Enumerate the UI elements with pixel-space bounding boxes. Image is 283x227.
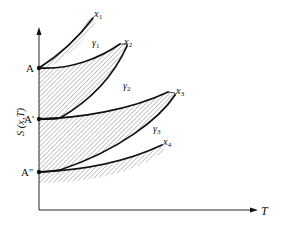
point-A1 bbox=[37, 117, 41, 121]
point-A2 bbox=[37, 170, 41, 174]
point-A bbox=[37, 66, 41, 70]
label-x4: x4 bbox=[162, 136, 172, 149]
label-A2: A'' bbox=[21, 166, 33, 178]
label-A: A bbox=[26, 62, 34, 74]
hatched-regions bbox=[39, 18, 175, 183]
label-x3: x3 bbox=[175, 85, 185, 98]
hatch-region-a-a1 bbox=[39, 44, 127, 119]
y-axis-arrow-icon bbox=[37, 27, 42, 35]
label-gamma3: γ3 bbox=[153, 123, 161, 136]
y-axis-label: S (x,T) bbox=[15, 108, 27, 136]
x-axis-arrow-icon bbox=[250, 208, 258, 213]
label-gamma1: γ1 bbox=[92, 37, 100, 50]
label-gamma2: γ2 bbox=[123, 80, 131, 93]
label-x1: x1 bbox=[93, 8, 103, 21]
diagram-canvas: A A' A'' S (x,T) T x1 x2 x3 x4 γ1 γ2 γ3 bbox=[0, 0, 283, 227]
x-axis-label: T bbox=[261, 204, 269, 218]
